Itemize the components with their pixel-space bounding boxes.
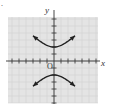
origin-label: O [47,62,53,71]
corner-mark: . [1,0,3,8]
x-axis-label: x [100,58,105,68]
grid-background [8,17,98,103]
y-axis-label: y [44,5,49,15]
hyperbola-graph: . y x O [0,0,116,111]
